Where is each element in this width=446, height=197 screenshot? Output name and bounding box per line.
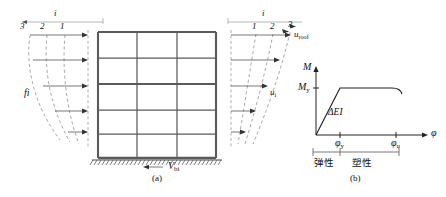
moment-curvature-axes — [313, 66, 428, 138]
figure-container: 3 2 1 i fi Vbi (a) (b) 1 2 3 i uroof ui … — [0, 0, 446, 197]
right-curve-label-3: 3 — [288, 20, 293, 29]
chart-xtick-phi-y-subscript: y — [341, 142, 344, 149]
story-displacement-subscript: i — [275, 92, 277, 98]
force-label-fi: fi — [24, 88, 30, 98]
chart-slope-annotation: ΔEI — [328, 108, 343, 118]
roof-displacement-label: uroof — [294, 30, 309, 40]
base-shear-subscript: bi — [174, 165, 179, 172]
chart-x-axis-label: φ — [431, 128, 437, 138]
right-axis-label-i: i — [262, 9, 265, 18]
figure-vector-layer — [0, 0, 446, 197]
chart-ytick-my: My — [298, 82, 310, 93]
base-shear-arrow — [143, 165, 163, 170]
left-axis-label-i: i — [54, 9, 57, 18]
caption-b: (b) — [350, 174, 361, 183]
frame-structure — [98, 32, 216, 158]
left-curve-label-1: 1 — [60, 22, 65, 31]
left-curve-label-2: 2 — [40, 22, 45, 31]
chart-region-elastic: 弹性 — [314, 158, 334, 168]
chart-region-plastic: 塑性 — [352, 158, 372, 168]
base-shear-label: Vbi — [168, 161, 179, 172]
roof-displacement-subscript: roof — [299, 34, 309, 40]
right-curve-label-1: 1 — [252, 22, 257, 31]
caption-a: (a) — [152, 174, 162, 183]
right-displacement-curves — [238, 32, 290, 144]
story-displacement-label: ui — [270, 88, 276, 98]
chart-xtick-phi-u: φu — [391, 138, 400, 149]
left-curve-label-3: 3 — [20, 22, 25, 31]
left-force-arrows — [30, 33, 88, 135]
chart-y-axis-label: M — [303, 62, 311, 72]
left-load-profile-curves — [29, 35, 79, 144]
chart-xtick-phi-y: φy — [335, 138, 344, 149]
chart-ytick-my-subscript: y — [306, 86, 309, 93]
right-curve-label-2: 2 — [270, 22, 275, 31]
ground-hatching — [90, 160, 222, 165]
chart-xtick-phi-u-subscript: u — [397, 142, 400, 149]
region-bracket — [313, 148, 399, 156]
